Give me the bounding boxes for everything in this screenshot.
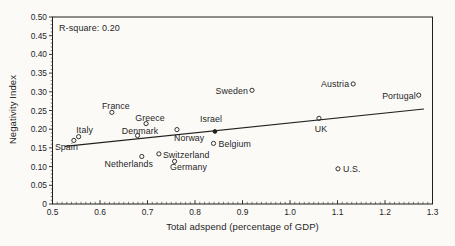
- x-tick-label: 1.2: [379, 207, 391, 217]
- data-point-norway: [175, 127, 179, 131]
- point-label-netherlands: Netherlands: [105, 159, 154, 169]
- x-tick-label: 0.9: [237, 207, 249, 217]
- x-tick-label: 0.6: [94, 207, 106, 217]
- y-tick-label: 0.15: [31, 143, 48, 153]
- data-point-switzerland: [157, 152, 161, 156]
- y-tick-label: 0.40: [31, 49, 48, 59]
- y-tick-label: 0.45: [31, 31, 48, 41]
- point-label-sweden: Sweden: [216, 86, 248, 96]
- y-tick-label: 0.35: [31, 68, 48, 78]
- data-point-netherlands: [140, 154, 144, 158]
- data-point-italy: [77, 135, 81, 139]
- y-tick-label: 0.25: [31, 106, 48, 116]
- x-tick-label: 0.7: [142, 207, 154, 217]
- data-point-us: [336, 167, 340, 171]
- point-label-uk: UK: [315, 124, 327, 134]
- point-label-portugal: Portugal: [382, 91, 416, 101]
- data-point-israel: [213, 130, 217, 134]
- point-label-austria: Austria: [321, 79, 349, 89]
- x-tick-label: 1.0: [284, 207, 296, 217]
- data-point-sweden: [250, 88, 254, 92]
- y-tick-label: 0.50: [31, 12, 48, 22]
- y-tick-label: 0.05: [31, 180, 48, 190]
- x-tick-label: 1.3: [427, 207, 439, 217]
- data-point-austria: [351, 82, 355, 86]
- point-label-spain: Spain: [55, 142, 78, 152]
- point-label-switzerland: Switzerland: [163, 150, 210, 160]
- y-tick-label: 0.20: [31, 124, 48, 134]
- point-label-germany: Germany: [170, 162, 207, 172]
- x-tick-label: 0.8: [189, 207, 201, 217]
- point-label-norway: Norway: [174, 133, 205, 143]
- point-label-belgium: Belgium: [219, 139, 251, 149]
- r-square-annotation: R-square: 0.20: [59, 23, 120, 33]
- x-tick-label: 1.1: [332, 207, 344, 217]
- x-tick-label: 0.5: [47, 207, 59, 217]
- data-point-belgium: [211, 141, 215, 145]
- point-label-italy: Italy: [76, 125, 93, 135]
- point-label-france: France: [102, 101, 130, 111]
- point-label-israel: Israel: [200, 114, 222, 124]
- data-point-portugal: [417, 93, 421, 97]
- point-label-denmark: Denmark: [122, 126, 159, 136]
- x-axis-title: Total adspend (percentage of GDP): [52, 221, 433, 232]
- y-axis-title: Negativity Index: [7, 10, 18, 210]
- scatter-chart: 0.50.60.70.80.91.01.11.21.300.050.100.15…: [0, 0, 455, 246]
- y-tick-label: 0: [42, 199, 47, 209]
- y-tick-label: 0.10: [31, 162, 48, 172]
- point-label-greece: Greece: [135, 113, 164, 123]
- point-label-us: U.S.: [343, 164, 361, 174]
- scatter-figure: 0.50.60.70.80.91.01.11.21.300.050.100.15…: [0, 0, 455, 246]
- y-tick-label: 0.30: [31, 87, 48, 97]
